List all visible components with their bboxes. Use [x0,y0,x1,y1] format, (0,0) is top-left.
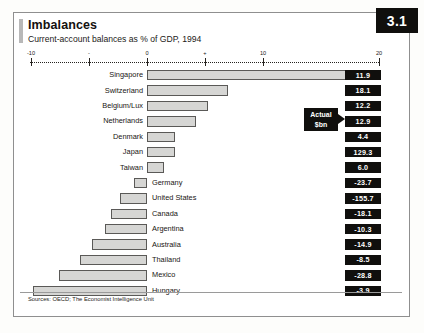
actual-bn-value: 6.0 [345,162,381,172]
bar-germany [134,178,147,188]
x-axis-tick [89,58,90,66]
x-axis-tick-label: -10 [27,50,35,56]
category-label: Switzerland [105,86,143,95]
x-axis-tick [379,58,380,66]
category-label: United States [152,193,196,202]
callout-arrow-icon [338,114,345,124]
actual-bn-value: -155.7 [345,193,381,203]
category-label: Japan [123,147,143,156]
chart-row: Denmark4.4 [0,130,424,145]
actual-bn-value: 12.9 [345,116,381,126]
bar-mexico [59,270,147,280]
x-axis-tick [147,58,148,66]
source-note: Sources: OECD; The Economist Intelligenc… [28,296,154,302]
x-axis-tick-label: 10 [260,50,266,56]
chart-row: Argentina-10.3 [0,222,424,237]
chart-row: Mexico-28.8 [0,268,424,283]
x-axis-tick-label: 0 [145,50,148,56]
x-axis-tick [263,58,264,66]
actual-bn-value: -10.3 [345,224,381,234]
category-label: Taiwan [120,163,143,172]
chart-page: Imbalances Current-account balances as %… [0,0,424,333]
x-axis-tick [205,58,206,66]
chart-row: Canada-18.1 [0,207,424,222]
category-label: Mexico [152,270,175,279]
bar-denmark [147,132,175,142]
actual-bn-value: 4.4 [345,132,381,142]
bar-taiwan [147,162,164,172]
category-label: Netherlands [103,116,143,125]
chart-plot-area: -10-0+1020Singapore11.9Switzerland18.1Be… [0,0,424,333]
actual-bn-value: -18.1 [345,209,381,219]
chart-row: Belgium/Lux12.2 [0,99,424,114]
chart-row: Thailand-8.5 [0,253,424,268]
category-label: Thailand [152,255,180,264]
x-axis-tick-label: 20 [376,50,382,56]
actual-bn-value: -14.9 [345,239,381,249]
bar-australia [92,239,147,249]
category-label: Germany [152,178,182,187]
category-label: Denmark [113,132,143,141]
x-axis-tick-label: - [88,50,90,56]
callout-line-1: Actual [310,110,331,120]
category-label: Hungary [152,286,180,295]
actual-bn-value: 12.2 [345,101,381,111]
x-axis-tick [31,58,32,66]
actual-bn-value: -8.5 [345,255,381,265]
chart-row: Switzerland18.1 [0,83,424,98]
bar-canada [111,209,147,219]
actual-bn-value: 18.1 [345,85,381,95]
chart-row: Netherlands12.9 [0,114,424,129]
bar-japan [147,147,175,157]
chart-row: Japan129.3 [0,145,424,160]
bar-netherlands [147,116,196,126]
category-label: Belgium/Lux [102,101,143,110]
chart-row: Taiwan6.0 [0,160,424,175]
category-label: Singapore [109,70,143,79]
category-label: Argentina [152,224,184,233]
bar-hungary [33,286,147,296]
x-axis-tick-label: + [203,50,206,56]
bar-switzerland [147,85,228,95]
actual-bn-callout: Actual $bn [304,108,338,131]
callout-line-2: $bn [315,120,327,130]
category-label: Canada [152,209,178,218]
chart-row: Australia-14.9 [0,237,424,252]
bar-belgium-lux [147,101,208,111]
actual-bn-value: 129.3 [345,147,381,157]
chart-row: Singapore11.9 [0,68,424,83]
source-divider [20,292,402,293]
actual-bn-value: -28.8 [345,270,381,280]
bar-united-states [120,193,147,203]
actual-bn-value: -23.7 [345,178,381,188]
bar-argentina [105,224,147,234]
chart-row: United States-155.7 [0,191,424,206]
actual-bn-value: -3.9 [345,286,381,296]
actual-bn-value: 11.9 [345,70,381,80]
chart-row: Germany-23.7 [0,176,424,191]
bar-thailand [80,255,147,265]
category-label: Australia [152,240,181,249]
